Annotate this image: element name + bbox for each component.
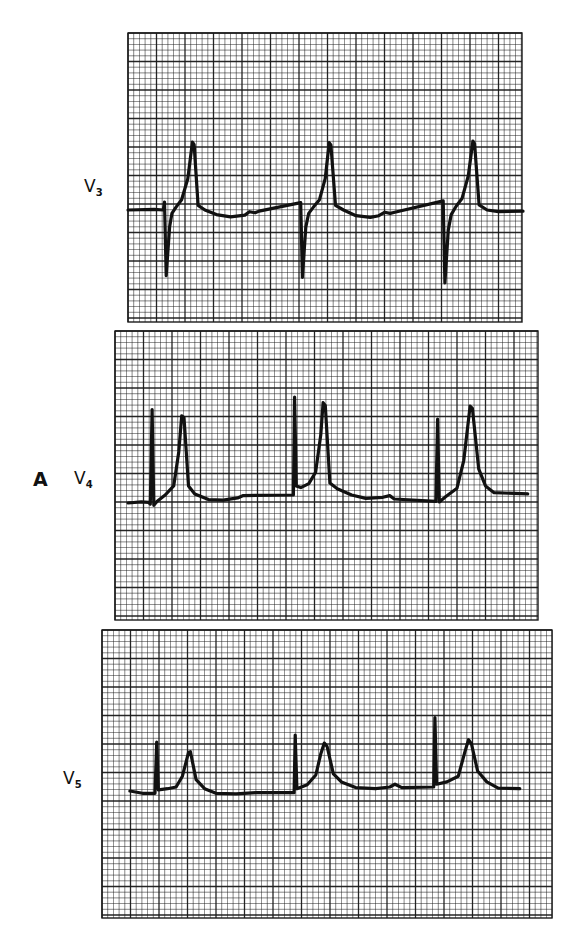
ecg-strip-v5 [102, 630, 552, 918]
ecg-figure [0, 0, 577, 943]
ecg-strip-v4 [115, 331, 538, 620]
ecg-strip-v3 [128, 33, 523, 322]
grid-paper [115, 331, 538, 620]
